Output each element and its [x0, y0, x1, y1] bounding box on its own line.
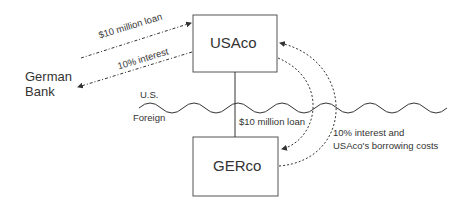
gerco-label: GERco	[213, 157, 261, 174]
border-wave	[139, 103, 447, 113]
us-region-label: U.S.	[140, 89, 158, 100]
german-bank-label: German Bank	[25, 69, 72, 99]
intercompany-loan-label: $10 million loan	[239, 116, 305, 127]
foreign-region-label: Foreign	[133, 112, 165, 123]
usaco-label: USAco	[210, 34, 257, 51]
return-flow-label: 10% interest and USAco's borrowing costs	[333, 126, 438, 152]
diagram-canvas	[0, 0, 473, 211]
return-flow-line1: 10% interest and	[333, 126, 438, 139]
german-bank-line1: German	[25, 69, 72, 84]
german-bank-line2: Bank	[25, 84, 72, 99]
return-flow-line2: USAco's borrowing costs	[333, 139, 438, 152]
